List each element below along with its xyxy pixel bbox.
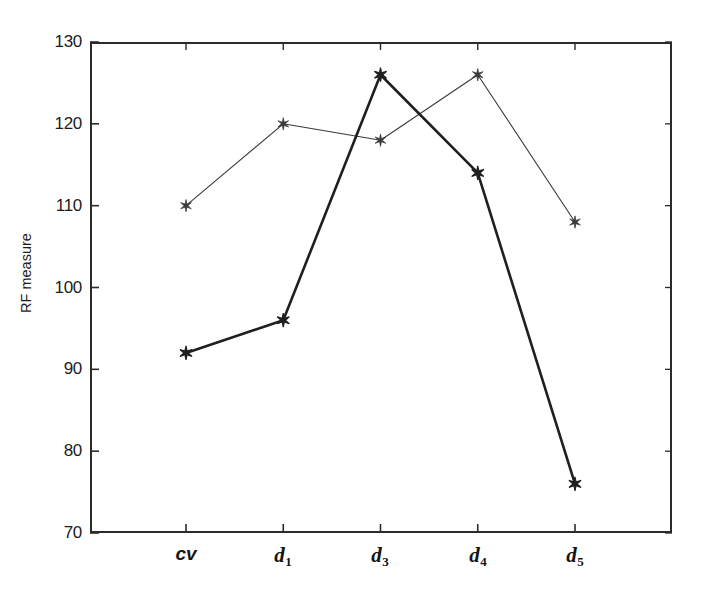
y-axis-title: RF measure: [18, 203, 34, 343]
x-tick-label-d1: d1: [274, 543, 292, 570]
x-tick-label-d4: d4: [469, 543, 487, 570]
x-tick-base-d4: d: [469, 543, 480, 567]
y-tick-label-80: 80: [64, 441, 82, 461]
x-tick-sub-d3: 3: [382, 554, 389, 569]
x-tick-base-cv: cv: [175, 543, 196, 564]
x-tick-sub-d4: 4: [480, 554, 487, 569]
x-tick-sub-d1: 1: [285, 554, 292, 569]
x-tick-label-d3: d3: [371, 543, 389, 570]
y-tick-label-100: 100: [55, 278, 82, 298]
x-tick-label-cv: cv: [175, 543, 196, 565]
y-tick-label-70: 70: [64, 523, 82, 543]
x-tick-base-d3: d: [371, 543, 382, 567]
y-tick-label-120: 120: [55, 114, 82, 134]
y-tick-label-130: 130: [55, 32, 82, 52]
plot-area-frame: [90, 42, 672, 533]
x-tick-label-d5: d5: [566, 543, 584, 570]
x-tick-sub-d5: 5: [577, 554, 584, 569]
x-tick-base-d1: d: [274, 543, 285, 567]
x-tick-base-d5: d: [566, 543, 577, 567]
x-axis-tick-labels: cv d1 d3 d4 d5: [0, 543, 705, 583]
chart-figure: 130 120 110 100 90 80 70 RF measure cv d…: [0, 0, 705, 596]
y-tick-label-110: 110: [56, 196, 82, 216]
y-tick-label-90: 90: [64, 359, 82, 379]
